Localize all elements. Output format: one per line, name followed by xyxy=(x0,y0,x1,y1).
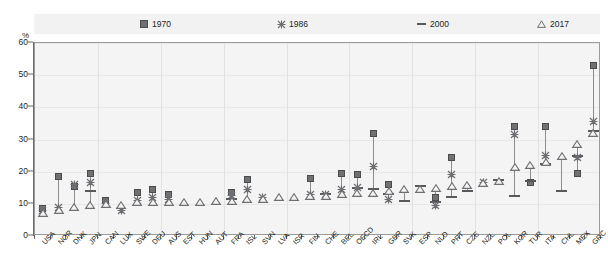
y-tick-mark xyxy=(28,74,33,75)
data-point-1986[interactable] xyxy=(86,178,95,187)
data-point-2017[interactable] xyxy=(305,192,315,200)
data-point-2017[interactable] xyxy=(431,184,441,192)
y-tick-mark xyxy=(28,202,33,203)
data-point-2017[interactable] xyxy=(447,182,457,190)
data-point-1970[interactable] xyxy=(338,170,345,177)
triangle-icon xyxy=(537,20,546,28)
y-tick-mark xyxy=(28,138,33,139)
data-point-1970[interactable] xyxy=(244,176,251,183)
data-point-2000[interactable] xyxy=(446,196,457,198)
data-point-2000[interactable] xyxy=(399,200,410,202)
data-point-2017[interactable] xyxy=(179,198,189,206)
x-tick-label: ISL xyxy=(244,232,258,246)
data-point-1970[interactable] xyxy=(55,173,62,180)
x-tick-mark xyxy=(34,235,35,239)
x-axis: USANORDNKJPNCANLUXSWEDEUAUSESTHUNAUTFRAI… xyxy=(34,235,600,277)
chart-legend: 1970 1986 2000 2017 xyxy=(34,14,600,34)
data-point-1970[interactable] xyxy=(574,170,581,177)
data-point-2017[interactable] xyxy=(525,161,535,169)
legend-label-1986: 1986 xyxy=(289,20,308,29)
data-point-1970[interactable] xyxy=(354,171,361,178)
data-point-1986[interactable] xyxy=(431,201,440,210)
data-point-1986[interactable] xyxy=(70,180,79,189)
data-point-2017[interactable] xyxy=(415,185,425,193)
data-point-2017[interactable] xyxy=(164,198,174,206)
data-point-2017[interactable] xyxy=(85,201,95,209)
data-point-2017[interactable] xyxy=(289,193,299,201)
y-tick-label: 10 xyxy=(19,199,28,208)
data-point-2000[interactable] xyxy=(525,180,536,182)
data-point-2000[interactable] xyxy=(85,190,96,192)
y-tick-mark xyxy=(28,170,33,171)
gridline-vertical xyxy=(161,43,162,234)
data-point-1986[interactable] xyxy=(510,130,519,139)
data-point-2017[interactable] xyxy=(38,209,48,217)
data-point-2017[interactable] xyxy=(132,198,142,206)
data-point-1986[interactable] xyxy=(243,185,252,194)
data-point-2017[interactable] xyxy=(227,197,237,205)
data-point-1970[interactable] xyxy=(590,62,597,69)
data-point-2017[interactable] xyxy=(242,195,252,203)
data-point-2017[interactable] xyxy=(462,181,472,189)
data-point-1970[interactable] xyxy=(511,123,518,130)
legend-item-1986[interactable]: 1986 xyxy=(277,14,308,34)
legend-item-2000[interactable]: 2000 xyxy=(417,14,449,34)
y-tick-label: 40 xyxy=(19,102,28,111)
plot-area xyxy=(34,42,600,235)
data-point-2017[interactable] xyxy=(478,179,488,187)
data-point-2017[interactable] xyxy=(337,190,347,198)
data-point-2017[interactable] xyxy=(510,163,520,171)
gridline-vertical xyxy=(224,43,225,234)
data-point-2017[interactable] xyxy=(557,152,567,160)
data-point-1970[interactable] xyxy=(307,175,314,182)
data-point-1986[interactable] xyxy=(573,153,582,162)
data-point-2017[interactable] xyxy=(368,189,378,197)
data-point-2000[interactable] xyxy=(509,195,520,197)
chart-root: 1970 1986 2000 2017 % 0102030405060 xyxy=(0,0,608,277)
data-point-2017[interactable] xyxy=(69,203,79,211)
legend-label-1970: 1970 xyxy=(152,20,171,29)
y-tick-mark xyxy=(28,42,33,43)
data-point-2017[interactable] xyxy=(54,206,64,214)
data-point-2000[interactable] xyxy=(556,190,567,192)
data-point-1970[interactable] xyxy=(432,194,439,201)
data-point-1970[interactable] xyxy=(448,154,455,161)
legend-item-2017[interactable]: 2017 xyxy=(537,14,569,34)
data-point-2017[interactable] xyxy=(258,195,268,203)
data-point-2017[interactable] xyxy=(274,193,284,201)
data-point-1986[interactable] xyxy=(447,170,456,179)
data-point-2017[interactable] xyxy=(321,192,331,200)
gridline-horizontal xyxy=(35,75,599,76)
data-point-2017[interactable] xyxy=(588,129,598,137)
data-point-1970[interactable] xyxy=(87,170,94,177)
data-point-1970[interactable] xyxy=(134,189,141,196)
x-cross-icon xyxy=(277,20,285,28)
data-point-1970[interactable] xyxy=(149,186,156,193)
data-point-1986[interactable] xyxy=(369,162,378,171)
data-point-2017[interactable] xyxy=(148,198,158,206)
dash-icon xyxy=(417,23,426,25)
data-point-2000[interactable] xyxy=(462,190,473,192)
data-point-1986[interactable] xyxy=(589,117,598,126)
data-point-2017[interactable] xyxy=(211,197,221,205)
data-point-2017[interactable] xyxy=(494,177,504,185)
data-point-2017[interactable] xyxy=(572,140,582,148)
data-point-2017[interactable] xyxy=(352,189,362,197)
data-point-2017[interactable] xyxy=(195,198,205,206)
y-tick-mark xyxy=(28,235,33,236)
data-point-2017[interactable] xyxy=(101,200,111,208)
y-axis: 0102030405060 xyxy=(0,30,34,245)
data-point-2017[interactable] xyxy=(384,187,394,195)
data-point-2017[interactable] xyxy=(399,185,409,193)
data-point-2017[interactable] xyxy=(541,158,551,166)
data-point-1986[interactable] xyxy=(384,195,393,204)
data-point-2017[interactable] xyxy=(116,201,126,209)
legend-label-2000: 2000 xyxy=(430,20,449,29)
y-tick-label: 20 xyxy=(19,166,28,175)
x-tick-label: ITA xyxy=(543,232,557,246)
data-point-1970[interactable] xyxy=(370,130,377,137)
connector-line xyxy=(561,156,562,191)
gridline-vertical xyxy=(538,43,539,234)
data-point-1970[interactable] xyxy=(542,123,549,130)
legend-item-1970[interactable]: 1970 xyxy=(140,14,171,34)
